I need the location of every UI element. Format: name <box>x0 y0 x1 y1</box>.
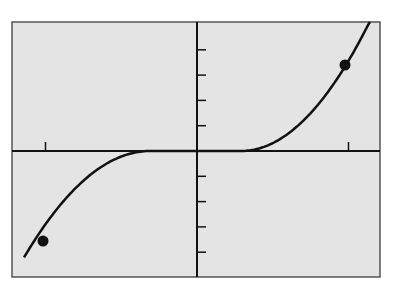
data-point <box>38 236 49 247</box>
data-point <box>340 60 351 71</box>
cubic-like-chart <box>0 0 394 292</box>
